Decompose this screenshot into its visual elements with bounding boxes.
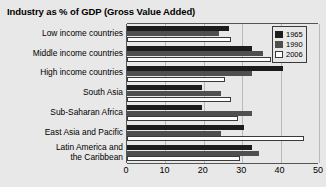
legend-label: 2006 xyxy=(286,51,303,59)
category-label: South Asia xyxy=(0,88,123,97)
x-tick-label: 10 xyxy=(159,165,169,175)
legend-item: 1990 xyxy=(275,40,303,49)
category-axis-labels: Low income countriesMiddle income countr… xyxy=(0,24,123,163)
legend-item: 2006 xyxy=(275,50,303,59)
gridline-50 xyxy=(319,24,320,163)
x-tick-label: 30 xyxy=(236,165,246,175)
bar xyxy=(127,125,244,130)
bar xyxy=(127,136,304,141)
category-label: East Asia and Pacific xyxy=(0,128,123,137)
x-tick-label: 40 xyxy=(275,165,285,175)
legend-label: 1990 xyxy=(286,41,303,49)
bar xyxy=(127,31,219,36)
x-tick-label: 50 xyxy=(313,165,323,175)
bar xyxy=(127,57,271,62)
category-label: Low income countries xyxy=(0,29,123,38)
bar xyxy=(127,116,238,121)
legend-swatch-icon xyxy=(275,31,283,38)
category-label: Middle income countries xyxy=(0,49,123,58)
bar xyxy=(127,156,240,161)
bar xyxy=(127,66,283,71)
category-label: High income countries xyxy=(0,68,123,77)
bar xyxy=(127,131,221,136)
bar xyxy=(127,77,225,82)
category-label: Sub-Saharan Africa xyxy=(0,108,123,117)
legend-swatch-icon xyxy=(275,41,283,48)
chart-title: Industry as % of GDP (Gross Value Added) xyxy=(7,6,195,17)
legend-item: 1965 xyxy=(275,30,303,39)
x-tick-label: 0 xyxy=(123,165,128,175)
bar xyxy=(127,51,263,56)
bar xyxy=(127,151,259,156)
x-axis-tick-labels: 01020304050 xyxy=(126,165,318,179)
bar xyxy=(127,105,202,110)
chart-container: Industry as % of GDP (Gross Value Added)… xyxy=(0,0,326,187)
bar xyxy=(127,111,252,116)
chart-legend: 196519902006 xyxy=(272,26,307,63)
bar xyxy=(127,71,252,76)
legend-swatch-icon xyxy=(275,51,283,58)
category-label: Latin America and the Caribbean xyxy=(0,143,123,162)
x-tick-label: 20 xyxy=(198,165,208,175)
bar xyxy=(127,85,202,90)
bar xyxy=(127,37,231,42)
bar xyxy=(127,145,252,150)
bar xyxy=(127,91,221,96)
bar xyxy=(127,46,252,51)
bar xyxy=(127,26,229,31)
axis-line-bottom xyxy=(127,163,318,164)
legend-label: 1965 xyxy=(286,31,303,39)
bar xyxy=(127,97,231,102)
